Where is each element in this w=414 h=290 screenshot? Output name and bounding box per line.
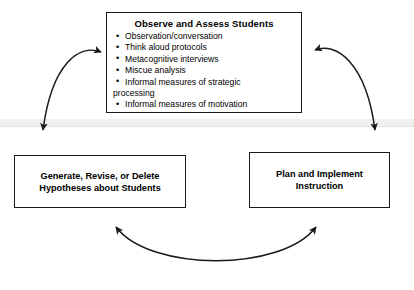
diagram-canvas: Observe and Assess Students Observation/… xyxy=(0,0,414,290)
list-item-line-1: Informal measures of strategic xyxy=(125,77,241,87)
instruction-label-line-1: Plan and Implement xyxy=(276,169,363,179)
list-item: Informal measures of strategicprocessing xyxy=(113,77,295,100)
list-item: Think aloud protocols xyxy=(113,42,295,53)
hypotheses-label-line-1: Generate, Revise, or Delete xyxy=(41,171,160,181)
arrow-hypotheses-instruction xyxy=(116,227,316,261)
node-observe-and-assess-students[interactable]: Observe and Assess Students Observation/… xyxy=(106,12,302,113)
list-item: Informal measures of motivation xyxy=(113,99,295,110)
list-item: Metacognitive interviews xyxy=(113,54,295,65)
list-item: Observation/conversation xyxy=(113,31,295,42)
node-generate-revise-delete-hypotheses[interactable]: Generate, Revise, or Delete Hypotheses a… xyxy=(14,155,186,208)
instruction-box-label: Plan and Implement Instruction xyxy=(250,153,389,207)
list-item-line-2: processing xyxy=(113,88,293,99)
arrow-observe-instruction xyxy=(315,48,375,130)
observe-box-heading: Observe and Assess Students xyxy=(113,18,295,29)
scan-artifact-band xyxy=(0,119,414,126)
list-item: Miscue analysis xyxy=(113,65,295,76)
observe-bullet-list: Observation/conversation Think aloud pro… xyxy=(113,31,295,111)
scan-artifact-line xyxy=(0,126,414,127)
hypotheses-label-line-2: Hypotheses about Students xyxy=(39,183,161,193)
hypotheses-box-label: Generate, Revise, or Delete Hypotheses a… xyxy=(15,156,185,207)
node-plan-and-implement-instruction[interactable]: Plan and Implement Instruction xyxy=(249,152,390,208)
instruction-label-line-2: Instruction xyxy=(296,181,343,191)
